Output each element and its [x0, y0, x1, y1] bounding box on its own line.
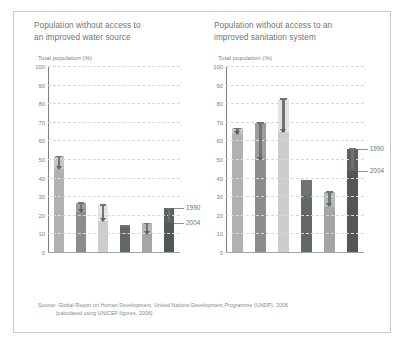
gridline-0 — [226, 252, 364, 253]
gridline-10 — [48, 233, 180, 234]
ytick-label-50: 50 — [39, 157, 45, 163]
chart-sanitation-title-line2: improved sanitation system — [214, 33, 316, 42]
ytick-label-40: 40 — [39, 176, 45, 182]
ytick-label-90: 90 — [217, 83, 223, 89]
chart-water-plot: 0102030405060708090100 — [48, 67, 180, 253]
arrow-shaft — [282, 99, 284, 132]
source-line-1: Source: Global Report on Human Developme… — [38, 302, 383, 310]
source-note: Source: Global Report on Human Developme… — [38, 302, 383, 317]
ytick-label-70: 70 — [39, 120, 45, 126]
gridline-80 — [226, 103, 364, 104]
chart-water-title-line1: Population without access to — [34, 21, 141, 30]
arrow-head — [56, 166, 62, 170]
bar-2004 — [347, 171, 358, 253]
gridline-30 — [226, 196, 364, 197]
arrow-head — [303, 196, 309, 200]
chart-water-yaxis-label: Total population (%) — [38, 55, 92, 61]
legend-leader-newer — [358, 171, 368, 172]
legend-label-older: 1990 — [370, 145, 384, 152]
legend-leader-older — [174, 208, 184, 209]
gridline-50 — [48, 159, 180, 160]
arrow-head — [122, 227, 128, 231]
bar-2004 — [164, 223, 174, 253]
gridline-60 — [226, 140, 364, 141]
ytick-label-10: 10 — [39, 231, 45, 237]
bar-2004 — [255, 160, 266, 253]
bar-2004 — [142, 234, 152, 253]
gridline-50 — [226, 159, 364, 160]
gridline-90 — [226, 85, 364, 86]
chart-water-yaxis-line — [48, 67, 49, 253]
chart-sanitation-yaxis-label: Total population (%) — [218, 55, 272, 61]
legend-leader-newer — [174, 223, 184, 224]
bar-group — [54, 156, 64, 253]
bar-2004 — [278, 132, 289, 253]
gridline-20 — [48, 215, 180, 216]
legend-leader-older — [358, 149, 368, 150]
legend-label-newer: 2004 — [370, 167, 384, 174]
ytick-label-0: 0 — [42, 250, 45, 256]
arrow-head — [78, 209, 84, 213]
ytick-label-100: 100 — [35, 64, 45, 70]
arrow-head — [234, 131, 240, 135]
gridline-70 — [226, 122, 364, 123]
arrow-head — [349, 168, 355, 172]
bar-2004 — [98, 221, 108, 253]
chart-sanitation-category-labels — [226, 255, 364, 293]
ytick-label-30: 30 — [217, 194, 223, 200]
charts-container: Population without access to an improved… — [14, 12, 392, 294]
ytick-label-60: 60 — [217, 138, 223, 144]
ytick-label-40: 40 — [217, 176, 223, 182]
gridline-100 — [48, 66, 180, 67]
bar-2004 — [54, 169, 64, 253]
gridline-20 — [226, 215, 364, 216]
chart-water-category-labels — [48, 255, 180, 293]
bar-2004 — [324, 207, 335, 254]
ytick-label-50: 50 — [217, 157, 223, 163]
ytick-label-10: 10 — [217, 231, 223, 237]
arrow-head — [326, 203, 332, 207]
arrow-shaft — [259, 123, 261, 160]
chart-sanitation-plot: 0102030405060708090100 — [226, 67, 364, 253]
ytick-label-70: 70 — [217, 120, 223, 126]
figure-page: Population without access to an improved… — [0, 0, 404, 344]
arrow-head — [166, 220, 172, 224]
bar-2004 — [301, 199, 312, 253]
arrow-head — [257, 157, 263, 161]
ytick-label-100: 100 — [213, 64, 223, 70]
source-line-2: [calculated using UNICEF figures, 2006]. — [38, 310, 383, 318]
ytick-label-20: 20 — [39, 213, 45, 219]
gridline-90 — [48, 85, 180, 86]
gridline-10 — [226, 233, 364, 234]
ytick-label-90: 90 — [39, 83, 45, 89]
gridline-100 — [226, 66, 364, 67]
arrow-head — [100, 218, 106, 222]
arrow-head — [280, 129, 286, 133]
gridline-80 — [48, 103, 180, 104]
ytick-label-80: 80 — [39, 101, 45, 107]
chart-sanitation-title-line1: Population without access to an — [214, 21, 332, 30]
chart-water-title: Population without access to an improved… — [34, 20, 206, 44]
ytick-label-20: 20 — [217, 213, 223, 219]
ytick-label-30: 30 — [39, 194, 45, 200]
gridline-30 — [48, 196, 180, 197]
gridline-0 — [48, 252, 180, 253]
arrow-head — [144, 231, 150, 235]
chart-sanitation: Population without access to an improved… — [204, 12, 392, 294]
chart-water-title-line2: an improved water source — [34, 33, 131, 42]
gridline-70 — [48, 122, 180, 123]
chart-sanitation-title: Population without access to an improved… — [214, 20, 386, 44]
chart-sanitation-yaxis-line — [226, 67, 227, 253]
gridline-60 — [48, 140, 180, 141]
bar-2004 — [232, 134, 243, 253]
gridline-40 — [226, 178, 364, 179]
figure-frame: Population without access to an improved… — [13, 11, 391, 333]
ytick-label-60: 60 — [39, 138, 45, 144]
chart-water: Population without access to an improved… — [24, 12, 209, 294]
ytick-label-0: 0 — [220, 250, 223, 256]
legend-label-older: 1990 — [186, 204, 200, 211]
ytick-label-80: 80 — [217, 101, 223, 107]
gridline-40 — [48, 178, 180, 179]
legend-label-newer: 2004 — [186, 219, 200, 226]
